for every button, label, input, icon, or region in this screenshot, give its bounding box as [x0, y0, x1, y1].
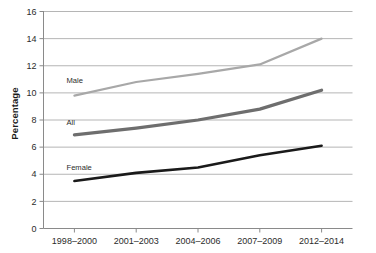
x-tick-label: 2004–2006	[175, 236, 220, 246]
chart-background	[0, 0, 376, 253]
x-axis-labels-group: 1998–20002001–20032004–20062007–20092012…	[52, 236, 344, 246]
y-tick-label: 6	[31, 142, 36, 152]
y-tick-label: 0	[31, 224, 36, 234]
x-tick-label: 2001–2003	[114, 236, 159, 246]
y-tick-label: 4	[31, 169, 36, 179]
x-tick-label: 1998–2000	[52, 236, 97, 246]
series-label-all: All	[67, 118, 76, 127]
x-tick-label: 2007–2009	[237, 236, 282, 246]
series-label-female: Female	[67, 163, 92, 172]
y-tick-label: 12	[26, 61, 36, 71]
y-tick-label: 8	[31, 115, 36, 125]
chart-container: 0246810121416 MaleAllFemale 1998–2000200…	[0, 0, 376, 253]
y-tick-label: 10	[26, 88, 36, 98]
x-tick-label: 2012–2014	[299, 236, 344, 246]
y-tick-label: 2	[31, 197, 36, 207]
series-label-male: Male	[67, 76, 83, 85]
y-tick-label: 16	[26, 7, 36, 17]
line-chart: 0246810121416 MaleAllFemale 1998–2000200…	[0, 0, 376, 253]
y-tick-label: 14	[26, 34, 36, 44]
